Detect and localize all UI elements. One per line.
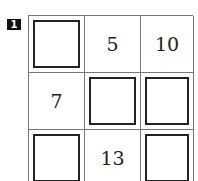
grid-cell-r3c2: 13 [85,130,141,181]
grid-cell-r3c3[interactable] [141,130,194,181]
grid-cell-r2c1: 7 [29,73,85,130]
grid-cell-r1c3: 10 [141,16,194,73]
grid-cell-r2c2[interactable] [85,73,141,130]
grid-cell-r2c3[interactable] [141,73,194,130]
grid-cell-r3c1[interactable] [29,130,85,181]
answer-box[interactable] [145,77,189,125]
grid-cell-r1c1[interactable] [29,16,85,73]
answer-box[interactable] [33,20,80,68]
answer-box[interactable] [89,77,136,125]
number-grid: 5 10 7 13 [28,15,193,181]
problem-number-badge: 1 [7,19,21,30]
answer-box[interactable] [145,134,189,181]
answer-box[interactable] [33,134,80,181]
grid-cell-r1c2: 5 [85,16,141,73]
